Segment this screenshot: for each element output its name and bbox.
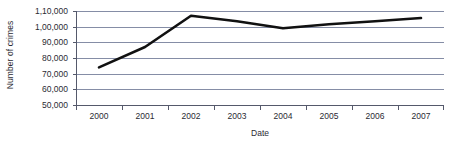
y-tick-label: 90,000 [42,37,68,47]
x-tick-label: 2001 [136,111,155,121]
y-tick-label: 1,10,000 [35,6,68,16]
y-axis-title-label: Number of crimes [5,21,15,90]
y-axis-tick-labels: 50,00060,00070,00080,00090,0001,00,0001,… [18,11,72,105]
x-tick-mark [76,106,77,110]
x-tick-label: 2004 [274,111,293,121]
y-tick-label: 50,000 [42,100,68,110]
x-tick-label: 2000 [90,111,109,121]
x-tick-label: 2007 [412,111,431,121]
x-tick-mark [122,106,123,110]
x-tick-label: 2002 [182,111,201,121]
x-tick-mark [214,106,215,110]
x-axis-title: Date [76,128,444,138]
data-series-line [76,11,444,105]
x-tick-label: 2003 [228,111,247,121]
y-tick-label: 1,00,000 [35,22,68,32]
x-tick-mark [306,106,307,110]
x-tick-mark [260,106,261,110]
y-tick-label: 80,000 [42,53,68,63]
x-axis-tick-labels: 20002001200220032004200520062007 [76,111,444,125]
y-tick-label: 60,000 [42,84,68,94]
x-tick-mark [398,106,399,110]
y-axis-title: Number of crimes [0,0,20,110]
plot-area [76,11,444,105]
x-tick-label: 2006 [366,111,385,121]
y-tick-label: 70,000 [42,69,68,79]
x-axis-tick-marks [76,106,444,110]
line-chart: Number of crimes 50,00060,00070,00080,00… [0,0,461,148]
x-tick-mark [443,106,444,110]
x-tick-mark [168,106,169,110]
x-tick-mark [352,106,353,110]
x-tick-label: 2005 [320,111,339,121]
